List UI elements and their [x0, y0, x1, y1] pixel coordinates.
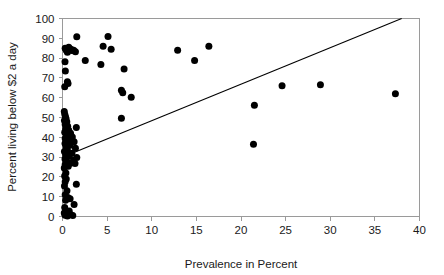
data-point [119, 89, 126, 96]
data-points [61, 33, 399, 219]
data-point [73, 181, 80, 188]
scatter-chart-figure: 0102030405060708090100 0510152025303540 … [0, 0, 444, 275]
data-point [121, 65, 128, 72]
y-tick-label-0: 0 [48, 211, 54, 223]
data-point [250, 141, 257, 148]
data-point [108, 46, 115, 53]
data-point [317, 81, 324, 88]
data-point [72, 48, 79, 55]
x-tick-label-35: 35 [368, 224, 381, 236]
y-tick-label-70: 70 [42, 72, 55, 84]
regression-trend-line [63, 19, 402, 158]
chart-canvas: 0102030405060708090100 0510152025303540 … [0, 0, 444, 275]
y-axis-title: Percent living below $2 a day [6, 42, 18, 192]
x-tick-label-25: 25 [279, 224, 292, 236]
y-axis-tick-labels: 0102030405060708090100 [35, 13, 54, 223]
data-point [82, 57, 89, 64]
data-point [118, 115, 125, 122]
data-point [128, 94, 135, 101]
data-point [251, 102, 258, 109]
data-point [71, 201, 78, 208]
data-point [205, 43, 212, 50]
y-tick-label-50: 50 [42, 112, 55, 124]
data-point [191, 57, 198, 64]
x-axis-tick-labels: 0510152025303540 [59, 224, 426, 236]
y-tick-label-40: 40 [42, 132, 55, 144]
y-tick-label-20: 20 [42, 171, 55, 183]
y-tick-label-100: 100 [35, 13, 54, 25]
data-point [97, 61, 104, 68]
data-point [279, 82, 286, 89]
x-tick-label-40: 40 [413, 224, 426, 236]
data-point [73, 33, 80, 40]
x-tick-label-20: 20 [235, 224, 248, 236]
data-point [100, 43, 107, 50]
data-point [72, 160, 79, 167]
data-point [61, 83, 68, 90]
data-point [392, 90, 399, 97]
data-point [66, 207, 73, 214]
x-tick-label-10: 10 [145, 224, 158, 236]
y-tick-label-30: 30 [42, 151, 55, 163]
y-tick-label-90: 90 [42, 33, 55, 45]
x-tick-label-0: 0 [59, 224, 65, 236]
y-tick-label-80: 80 [42, 52, 55, 64]
data-point [62, 58, 69, 65]
x-tick-label-15: 15 [190, 224, 203, 236]
x-axis-title: Prevalence in Percent [185, 258, 298, 270]
data-point [174, 47, 181, 54]
trend-line [63, 19, 402, 158]
data-point [105, 33, 112, 40]
data-point [62, 197, 69, 204]
plot-frame [63, 19, 420, 217]
y-tick-label-60: 60 [42, 92, 55, 104]
x-tick-label-30: 30 [324, 224, 337, 236]
data-point [62, 67, 69, 74]
data-point [73, 124, 80, 131]
y-tick-label-10: 10 [42, 191, 55, 203]
x-tick-label-5: 5 [104, 224, 110, 236]
